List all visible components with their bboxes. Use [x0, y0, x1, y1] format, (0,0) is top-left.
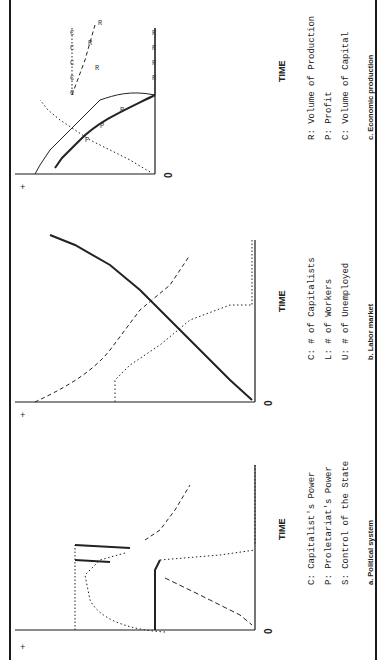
panel-a-legend-1: C: Capitalist's Power [307, 472, 317, 585]
panel-c-legend-2: P: Profit [324, 91, 334, 140]
svg-text:C: C [70, 44, 74, 52]
svg-text:P: P [120, 106, 124, 114]
svg-text:C: C [70, 29, 74, 37]
svg-text:P: P [85, 136, 89, 144]
panel-a-curves [75, 465, 255, 632]
panel-a-legend-3: S: Control of the State [341, 461, 351, 585]
panel-c-origin-label: 0 [163, 172, 174, 178]
svg-text:R: R [152, 74, 157, 82]
svg-text:C: C [70, 59, 74, 67]
panel-c-caption: c. Economic production [366, 55, 375, 140]
panel-b-legend-1: C: # of Capitalists [307, 257, 317, 360]
panel-c-xlabel: TIME [277, 61, 287, 83]
panel-b-curves [35, 235, 252, 402]
panel-b-legend-2: L: # of Workers [324, 279, 334, 360]
svg-text:R: R [152, 59, 157, 67]
panel-a-xlabel: TIME [277, 519, 287, 541]
figure: RRRR CCCCC PPP RRR + + + [0, 0, 383, 660]
panel-b-plus-mark: + [20, 411, 25, 421]
panel-c-curves [35, 25, 155, 174]
svg-text:R: R [95, 64, 100, 72]
svg-text:R: R [152, 44, 157, 52]
panel-c-markers: RRRR CCCCC PPP RRR [70, 19, 157, 144]
panel-c-plus-mark: + [20, 183, 25, 193]
svg-text:R: R [98, 19, 103, 27]
panel-c-legend-1: R: Volume of Production [307, 16, 317, 140]
svg-text:C: C [70, 89, 74, 97]
svg-text:P: P [100, 122, 104, 130]
panel-b-origin-label: 0 [263, 400, 274, 406]
svg-text:R: R [152, 29, 157, 37]
panel-a-caption: a. Political system [366, 520, 375, 585]
panel-a-plus-mark: + [20, 643, 25, 653]
svg-text:C: C [70, 74, 74, 82]
panel-b-caption: b. Labor market [366, 304, 375, 360]
panel-b-legend-3: U: # of Unemployed [341, 263, 351, 360]
panel-a-legend-2: P: Proletariat's Power [324, 466, 334, 585]
panel-b-xlabel: TIME [277, 291, 287, 313]
svg-text:R: R [88, 39, 93, 47]
panel-a-origin-label: 0 [263, 628, 274, 634]
panel-c-legend-3: C: Volume of Capital [341, 32, 351, 140]
